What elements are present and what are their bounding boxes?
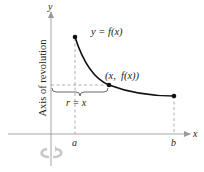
curve-f xyxy=(75,37,174,96)
endpoint-b xyxy=(172,94,177,99)
x-axis-label: x xyxy=(192,128,198,139)
tick-label-b: b xyxy=(171,137,176,148)
point-x-fx xyxy=(107,83,112,88)
radius-brace xyxy=(52,88,108,96)
shell-method-diagram: x y y = f(x) (x, f(x)) r = x a b Axis of… xyxy=(0,0,204,172)
radius-label: r = x xyxy=(66,97,87,108)
curve-label: y = f(x) xyxy=(90,26,123,38)
tick-label-a: a xyxy=(72,137,77,148)
y-axis-label: y xyxy=(47,1,53,12)
endpoint-a xyxy=(73,35,78,40)
axis-of-revolution-label: Axis of revolution xyxy=(37,39,48,117)
point-label: (x, f(x)) xyxy=(105,70,140,82)
